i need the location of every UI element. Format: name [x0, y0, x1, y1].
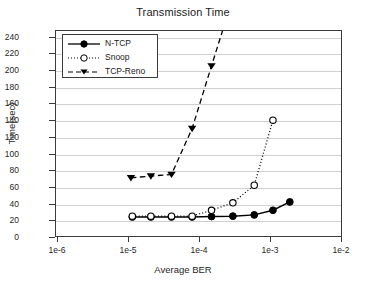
x-tick-mark: [270, 237, 271, 242]
grid-line: [56, 104, 341, 105]
y-tick-label: 100: [0, 149, 19, 159]
y-tick-label: 220: [0, 48, 19, 58]
y-tick-label: 180: [0, 82, 19, 92]
y-tick-label: 200: [0, 65, 19, 75]
legend-item-2: TCP-Reno: [63, 65, 159, 79]
legend-item-0: N-TCP: [63, 37, 159, 51]
legend-label-tcp-reno: TCP-Reno: [105, 66, 145, 76]
legend-item-1: Snoop: [63, 51, 159, 65]
y-tick-mark: [49, 237, 55, 238]
x-tick-label: 1e-2: [321, 245, 361, 255]
y-tick-label: 80: [0, 165, 19, 175]
y-tick-label: 0: [0, 232, 19, 242]
y-tick-label: 20: [0, 215, 19, 225]
x-tick-label: 1e-4: [179, 245, 219, 255]
grid-line: [56, 188, 341, 189]
x-axis-title: Average BER: [0, 264, 366, 275]
x-tick-label: 1e-6: [37, 245, 77, 255]
x-tick-label: 1e-5: [108, 245, 148, 255]
x-tick-mark: [128, 237, 129, 242]
x-tick-mark: [341, 237, 342, 242]
grid-line: [56, 205, 341, 206]
y-tick-label: 160: [0, 98, 19, 108]
y-tick-label: 140: [0, 115, 19, 125]
legend-swatch-n-tcp: [67, 37, 101, 51]
grid-line: [56, 171, 341, 172]
y-tick-label: 40: [0, 199, 19, 209]
x-tick-label: 1e-3: [250, 245, 290, 255]
grid-line: [56, 221, 341, 222]
x-tick-mark: [57, 237, 58, 242]
y-tick-label: 120: [0, 132, 19, 142]
x-tick-mark: [199, 237, 200, 242]
legend-swatch-snoop: [67, 51, 101, 65]
legend-label-snoop: Snoop: [105, 52, 130, 62]
grid-line: [56, 121, 341, 122]
legend: N-TCP Snoop TCP-Reno: [62, 34, 158, 78]
grid-line: [56, 138, 341, 139]
y-tick-label: 60: [0, 182, 19, 192]
grid-line: [56, 155, 341, 156]
legend-swatch-tcp-reno: [67, 65, 101, 79]
chart-title: Transmission Time: [0, 6, 366, 18]
grid-line: [56, 88, 341, 89]
chart-figure: Transmission Time Time(sec) Average BER …: [0, 0, 366, 284]
legend-label-n-tcp: N-TCP: [105, 38, 131, 48]
y-tick-label: 240: [0, 32, 19, 42]
